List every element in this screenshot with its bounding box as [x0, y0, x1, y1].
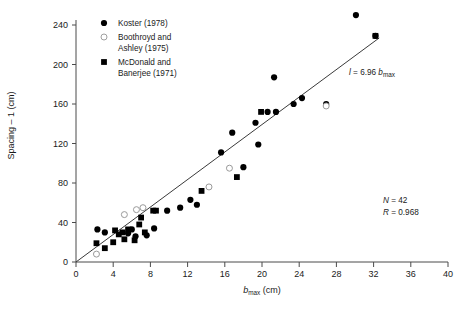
- point-filled-square: [373, 33, 379, 39]
- point-filled-square: [138, 215, 144, 221]
- point-filled-circle: [271, 74, 277, 80]
- legend-label-1b: Ashley (1975): [118, 44, 169, 53]
- legend-marker-1: [101, 34, 107, 40]
- point-filled-square: [132, 237, 138, 243]
- y-tick-label: 160: [53, 99, 68, 109]
- y-axis-title: Spacing – 1 (cm): [6, 91, 16, 159]
- point-filled-square: [234, 174, 240, 180]
- point-open-circle: [140, 205, 146, 211]
- point-filled-circle: [102, 229, 108, 235]
- chart-background: [0, 0, 465, 311]
- x-tick-label: 36: [406, 269, 416, 279]
- point-filled-square: [136, 222, 142, 228]
- y-tick-label: 200: [53, 60, 68, 70]
- point-open-circle: [226, 165, 232, 171]
- point-filled-circle: [177, 205, 183, 211]
- x-tick-label: 28: [331, 269, 341, 279]
- point-filled-circle: [94, 226, 100, 232]
- x-tick-label: 40: [443, 269, 453, 279]
- point-filled-circle: [229, 130, 235, 136]
- point-filled-circle: [255, 141, 261, 147]
- point-filled-square: [199, 188, 205, 194]
- point-filled-circle: [273, 109, 279, 115]
- point-filled-square: [121, 236, 127, 242]
- point-open-circle: [323, 103, 329, 109]
- point-filled-square: [94, 240, 100, 246]
- point-filled-square: [153, 208, 159, 214]
- legend-label-2: McDonald and: [118, 58, 171, 67]
- y-tick-label: 0: [63, 257, 68, 267]
- point-filled-square: [110, 239, 116, 245]
- annotation-n: N = 42: [383, 196, 408, 205]
- x-tick-label: 8: [148, 269, 153, 279]
- point-filled-circle: [194, 202, 200, 208]
- scatter-plot: 04080120160200240Spacing – 1 (cm) 048121…: [0, 0, 465, 311]
- point-filled-circle: [187, 197, 193, 203]
- point-filled-circle: [252, 120, 258, 126]
- point-filled-square: [258, 109, 264, 115]
- point-filled-circle: [264, 109, 270, 115]
- x-axis-title-unit: (cm): [260, 285, 281, 295]
- chart-figure: 04080120160200240Spacing – 1 (cm) 048121…: [0, 0, 465, 311]
- point-filled-square: [142, 229, 148, 235]
- fit-equation-rest: = 6.96: [351, 68, 379, 77]
- x-tick-label: 4: [111, 269, 116, 279]
- point-filled-circle: [164, 208, 170, 214]
- point-filled-circle: [353, 12, 359, 18]
- legend-label-2b: Banerjee (1971): [118, 69, 177, 78]
- point-filled-circle: [299, 95, 305, 101]
- y-tick-label: 240: [53, 20, 68, 30]
- x-tick-label: 0: [73, 269, 78, 279]
- legend-label-1: Boothroyd and: [118, 33, 172, 42]
- annotation-n-value: = 42: [389, 196, 408, 205]
- x-tick-label: 20: [257, 269, 267, 279]
- point-filled-circle: [291, 101, 297, 107]
- point-open-circle: [93, 251, 99, 257]
- y-tick-label: 80: [58, 178, 68, 188]
- point-filled-circle: [240, 164, 246, 170]
- x-axis-title-sub: max: [248, 289, 261, 296]
- point-open-circle: [133, 207, 139, 213]
- legend-marker-2: [101, 59, 107, 65]
- fit-equation-sub: max: [383, 71, 396, 78]
- annotation-r: R = 0.968: [383, 208, 419, 217]
- point-filled-circle: [151, 225, 157, 231]
- legend-label-0: Koster (1978): [118, 19, 168, 28]
- point-open-circle: [121, 212, 127, 218]
- y-tick-label: 40: [58, 218, 68, 228]
- x-tick-label: 12: [183, 269, 193, 279]
- point-open-circle: [206, 184, 212, 190]
- point-filled-square: [120, 229, 126, 235]
- point-filled-circle: [218, 149, 224, 155]
- x-tick-label: 24: [294, 269, 304, 279]
- legend-marker-0: [101, 20, 107, 26]
- annotation-r-value: = 0.968: [389, 208, 419, 217]
- x-tick-label: 16: [220, 269, 230, 279]
- point-filled-square: [125, 227, 131, 233]
- point-filled-square: [102, 245, 108, 251]
- y-tick-label: 120: [53, 139, 68, 149]
- x-tick-label: 32: [369, 269, 379, 279]
